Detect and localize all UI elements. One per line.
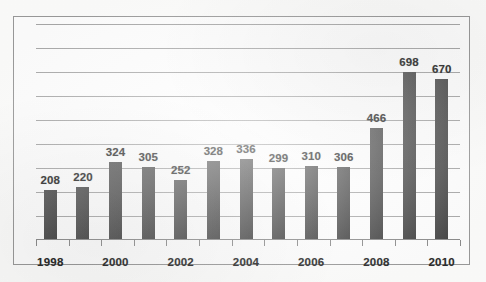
x-tick-1998 [36, 240, 37, 246]
x-axis-label-2006: 2006 [298, 256, 324, 268]
x-tick-2009 [395, 240, 396, 246]
x-tick-2005 [264, 240, 265, 246]
plot-area: 208220324305252328336299310306466698670 [36, 24, 460, 240]
bar-1998 [44, 190, 57, 240]
bar-value-label-2005: 299 [269, 152, 289, 164]
bar-value-label-1999: 220 [73, 171, 93, 183]
x-tick-2007 [330, 240, 331, 246]
gridline-900 [36, 24, 460, 25]
gridline-500 [36, 120, 460, 121]
x-axis-label-2000: 2000 [102, 256, 128, 268]
gridline-600 [36, 96, 460, 97]
bar-2005 [272, 168, 285, 240]
x-tick-1999 [69, 240, 70, 246]
x-tick-end [460, 240, 461, 246]
x-tick-2004 [232, 240, 233, 246]
bar-value-label-2007: 306 [334, 151, 354, 163]
bar-2007 [337, 167, 350, 240]
bar-1999 [76, 187, 89, 240]
x-tick-2006 [297, 240, 298, 246]
bar-2000 [109, 162, 122, 240]
bar-value-label-2009: 698 [399, 56, 419, 68]
bar-value-label-2008: 466 [367, 112, 387, 124]
x-axis-label-1998: 1998 [37, 256, 63, 268]
bar-value-label-2006: 310 [301, 150, 321, 162]
bar-2003 [207, 161, 220, 240]
gridline-700 [36, 72, 460, 73]
bar-2001 [142, 167, 155, 240]
x-tick-2002 [166, 240, 167, 246]
bar-value-label-2001: 305 [138, 151, 158, 163]
bar-value-label-2004: 336 [236, 143, 256, 155]
chart-frame: 208220324305252328336299310306466698670 … [13, 16, 470, 265]
bar-2008 [370, 128, 383, 240]
x-tick-2000 [101, 240, 102, 246]
bar-2006 [305, 166, 318, 240]
x-axis-label-2010: 2010 [428, 256, 454, 268]
bar-value-label-2010: 670 [432, 63, 452, 75]
x-axis-label-2004: 2004 [233, 256, 259, 268]
x-axis-line [36, 239, 460, 240]
bar-value-label-2003: 328 [204, 145, 224, 157]
x-tick-2003 [199, 240, 200, 246]
x-axis-label-2008: 2008 [363, 256, 389, 268]
bar-value-label-2002: 252 [171, 164, 191, 176]
x-tick-2008 [362, 240, 363, 246]
bar-2010 [435, 79, 448, 240]
bar-2009 [403, 72, 416, 240]
bar-value-label-1998: 208 [41, 174, 61, 186]
x-axis-label-2002: 2002 [168, 256, 194, 268]
bar-2004 [240, 159, 253, 240]
x-axis-labels-group: 1998200020022004200620082010 [36, 249, 460, 269]
bar-2002 [174, 180, 187, 240]
gridline-800 [36, 48, 460, 49]
x-tick-2010 [427, 240, 428, 246]
x-tick-2001 [134, 240, 135, 246]
bar-value-label-2000: 324 [106, 146, 126, 158]
